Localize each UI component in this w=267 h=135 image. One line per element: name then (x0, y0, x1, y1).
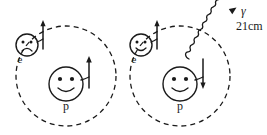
proton-eye-left-2 (70, 77, 74, 81)
proton-eye-left-1 (58, 77, 62, 81)
proton-mouth-smile-right (172, 88, 188, 92)
proton-left: p (49, 56, 92, 113)
proton-head-left (49, 67, 83, 101)
electron-eye-right-1 (136, 41, 139, 44)
photon-wavy-line (186, 0, 222, 59)
proton-spin-arrow-up-left (86, 56, 92, 88)
photon-arrowhead (229, 8, 237, 15)
electron-arm-left (37, 39, 43, 42)
proton-spin-arrow-down-right (200, 59, 205, 89)
electron-eye-left-2 (30, 41, 33, 44)
photon-wavelength-label: 21cm (236, 19, 263, 33)
panel-right-antiparallel-spin: p e γ 21cm (130, 0, 263, 126)
proton-eye-right-2 (184, 77, 188, 81)
electron-left: e (16, 20, 46, 65)
proton-label-right: p (177, 99, 183, 113)
proton-label-left: p (63, 99, 69, 113)
panel-left-parallel-spin: p e (16, 20, 116, 126)
electron-spin-arrow-up-left (40, 20, 45, 49)
electron-label-left: e (18, 53, 23, 65)
electron-arm-right (151, 39, 157, 42)
proton-head-right (163, 67, 197, 101)
electron-label-right: e (132, 53, 137, 65)
electron-eye-left-1 (22, 41, 25, 44)
hyperfine-transition-figure: p e (0, 0, 267, 135)
electron-right: e (130, 20, 160, 65)
gamma-symbol-label: γ (241, 4, 246, 18)
proton-right: p (163, 59, 206, 113)
electron-spin-arrow-up-right (154, 20, 159, 49)
electron-eye-right-2 (144, 41, 147, 44)
proton-mouth-smile-left (58, 88, 74, 92)
proton-eye-right-1 (172, 77, 176, 81)
